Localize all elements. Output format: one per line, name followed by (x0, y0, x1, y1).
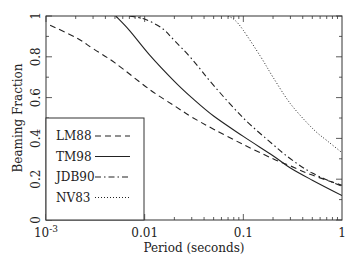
legend-label-tm98: TM98 (56, 150, 92, 164)
legend: LM88TM98JDB90NV83 (46, 118, 144, 220)
x-tick-label: 10-3 (34, 224, 58, 240)
series-jdb90-line (129, 16, 342, 186)
x-axis-label: Period (seconds) (143, 241, 244, 255)
chart-svg: 10-30.010.11 00.20.40.60.81 LM88TM98JDB9… (0, 0, 358, 271)
y-tick-label: 0.8 (29, 47, 43, 66)
x-tick-label: 0.01 (131, 226, 158, 240)
series-nv83-line (228, 16, 342, 153)
legend-label-lm88: LM88 (56, 129, 92, 143)
series-tm98-line (116, 16, 342, 196)
y-tick-label: 0 (29, 216, 43, 224)
x-tick-label: 0.1 (234, 226, 253, 240)
legend-label-nv83: NV83 (56, 191, 90, 205)
legend-label-jdb90: JDB90 (54, 170, 95, 184)
y-tick-label: 1 (29, 12, 43, 20)
chart-figure: 10-30.010.11 00.20.40.60.81 LM88TM98JDB9… (0, 0, 358, 271)
y-tick-label: 0.2 (29, 170, 43, 189)
y-tick-label: 0.4 (29, 128, 43, 147)
y-axis-label: Beaming Fraction (11, 63, 25, 172)
y-tick-label: 0.6 (29, 88, 43, 107)
x-tick-label: 1 (338, 226, 346, 240)
